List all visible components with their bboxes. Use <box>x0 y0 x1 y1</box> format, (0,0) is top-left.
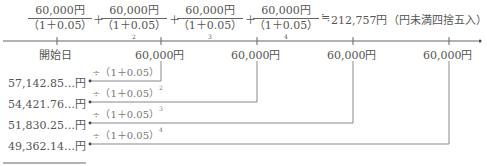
payment-label-4: 60,000円 <box>423 46 473 62</box>
formula-term-3: 60,000円 （1＋0.05）3 <box>177 5 243 44</box>
rounding-note: （円未満四捨五入） <box>388 11 487 27</box>
payment-label-2: 60,000円 <box>231 46 281 62</box>
divisor-label-1: ÷（1＋0.05） <box>92 64 159 79</box>
present-value-3: 51,830.25…円 <box>0 116 86 132</box>
approx-sign: ≒ <box>321 11 330 24</box>
divisor-label-4: ÷（1＋0.05）4 <box>92 127 163 142</box>
present-value-1: 57,142.85…円 <box>0 74 86 90</box>
present-value-2: 54,421.76…円 <box>0 95 86 111</box>
divisor-label-3: ÷（1＋0.05）3 <box>92 106 163 121</box>
formula-term-4: 60,000円 （1＋0.05）4 <box>253 5 319 44</box>
formula-term-2: 60,000円 （1＋0.05）2 <box>101 5 167 44</box>
formula-term-1: 60,000円 （1＋0.05） <box>28 5 92 32</box>
divisor-label-2: ÷（1＋0.05）2 <box>92 85 163 100</box>
start-day-label: 開始日 <box>39 46 72 62</box>
payment-label-1: 60,000円 <box>135 46 185 62</box>
payment-label-3: 60,000円 <box>327 46 377 62</box>
timeline-arrowhead <box>479 40 482 43</box>
present-value-4: 49,362.14…円 <box>0 137 86 153</box>
formula-result: 212,757円 <box>331 11 388 27</box>
